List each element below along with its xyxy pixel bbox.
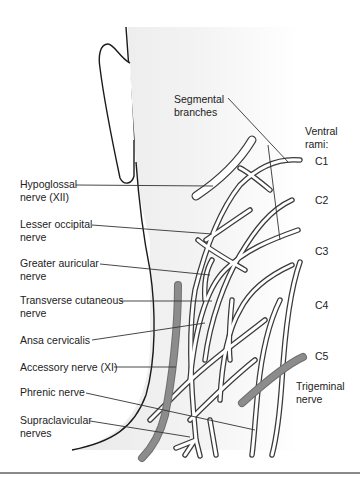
label-supraclavicular-nerves: Supraclavicularnerves <box>20 414 92 439</box>
label-lesser-occipital-nerve: Lesser occipitalnerve <box>20 218 92 243</box>
label-c5: C5 <box>315 350 328 363</box>
label-transverse-cutaneous-nerve: Transverse cutaneousnerve <box>20 294 124 319</box>
label-phrenic-nerve: Phrenic nerve <box>20 386 85 399</box>
label-c2: C2 <box>315 194 328 207</box>
label-trigeminal-nerve: Trigeminalnerve <box>296 380 345 405</box>
ear-outline <box>99 44 134 183</box>
label-c3: C3 <box>315 245 328 258</box>
label-hypoglossal-nerve: Hypoglossalnerve (XII) <box>20 178 77 203</box>
label-c4: C4 <box>315 299 328 312</box>
label-c1: C1 <box>315 155 328 168</box>
bottom-divider <box>0 472 360 474</box>
label-ansa-cervicalis: Ansa cervicalis <box>20 334 90 347</box>
label-segmental-branches: Segmentalbranches <box>174 93 224 118</box>
label-accessory-nerve: Accessory nerve (XI) <box>20 361 117 374</box>
label-greater-auricular-nerve: Greater auricularnerve <box>20 257 99 282</box>
label-ventral-rami: Ventralrami: <box>305 125 338 150</box>
